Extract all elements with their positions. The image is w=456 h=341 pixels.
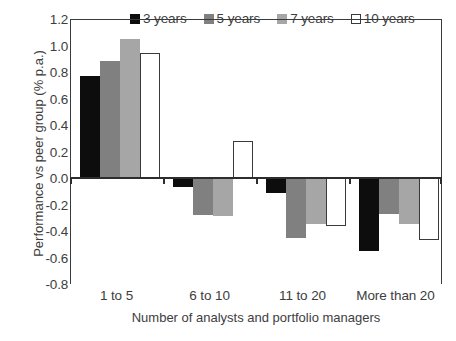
bar [379,178,399,214]
bar [80,76,100,178]
x-axis-tick [256,179,258,184]
x-axis-title: Number of analysts and portfolio manager… [70,310,442,325]
x-axis-tick [349,179,351,184]
x-axis-tick [70,179,72,184]
bar [193,178,213,215]
y-axis-line [70,19,71,284]
y-tick-label: -0.2 [46,197,68,212]
x-tick-label: 6 to 10 [189,288,230,303]
y-tick-label: 0.4 [50,118,68,133]
bar [266,178,286,193]
x-tick-label: 11 to 20 [279,288,326,303]
bar [173,178,193,187]
bar [419,178,439,240]
x-tick-label: 1 to 5 [100,288,133,303]
bar [359,178,379,251]
y-tick-label: 0.6 [50,91,68,106]
bar [286,178,306,238]
bar [140,53,160,178]
y-tick-label: 1.2 [50,12,68,27]
y-tick-label: 0.8 [50,65,68,80]
bar [399,178,419,224]
plot-right-border [441,19,442,284]
y-tick-label: 1.0 [50,38,68,53]
x-axis-tick [440,179,442,184]
plot-area [70,19,442,284]
y-tick-label: -0.4 [46,224,68,239]
y-tick-label: -0.8 [46,277,68,292]
x-tick-label: More than 20 [356,288,434,303]
bar [233,141,253,178]
x-axis-tick-labels: 1 to 56 to 1011 to 20More than 20 [70,288,442,306]
plot-top-border [70,19,442,20]
bar [306,178,326,224]
y-axis-tick-labels: 1.21.00.80.60.40.20.0-0.2-0.4-0.6-0.8 [36,0,68,341]
bar [213,178,233,216]
bar [326,178,346,226]
y-tick-label: 0.2 [50,144,68,159]
bar [120,39,140,178]
bar [100,61,120,178]
x-axis-tick [163,179,165,184]
bar-chart: 3 years5 years7 years10 years Performanc… [0,0,456,341]
y-tick-label: -0.6 [46,250,68,265]
y-tick-label: 0.0 [50,171,68,186]
